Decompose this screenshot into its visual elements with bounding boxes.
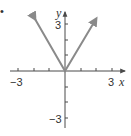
y-tick-label-3: 3 [55,19,61,31]
y-tick-label-neg3: −3 [49,113,62,125]
x-tick-label-neg3: −3 [10,76,23,88]
x-axis-label: x [118,75,125,89]
figure-marker: • [0,5,4,17]
graph-figure: • −3 3 3 −3 x y [0,0,131,136]
y-axis-label: y [55,6,62,20]
x-tick-label-3: 3 [108,76,114,88]
